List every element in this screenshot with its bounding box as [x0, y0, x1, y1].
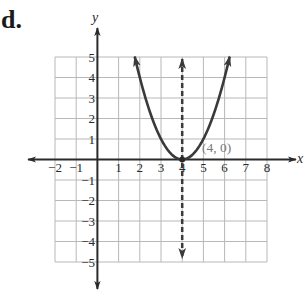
y-tick-label: 1 — [89, 132, 96, 147]
x-tick-label: 6 — [221, 160, 228, 175]
y-tick-label: 4 — [89, 70, 96, 85]
y-axis-label: y — [90, 10, 99, 25]
y-tick-label: 5 — [89, 50, 96, 65]
y-tick-label: −2 — [81, 193, 95, 208]
y-tick-label: 2 — [89, 111, 96, 126]
x-tick-label: −2 — [48, 160, 62, 175]
y-tick-label: −1 — [81, 173, 95, 188]
graph: x y −2−112345678 54321−1−2−3−4−5 (4, 0) — [0, 0, 308, 293]
vertex-label: (4, 0) — [202, 140, 231, 155]
x-tick-label: 8 — [264, 160, 271, 175]
y-tick-label: −4 — [81, 234, 95, 249]
y-tick-label: 3 — [89, 91, 96, 106]
x-tick-label: 5 — [200, 160, 207, 175]
y-tick-label: −5 — [81, 255, 95, 270]
x-tick-label: 7 — [243, 160, 250, 175]
x-tick-label: 2 — [137, 160, 144, 175]
x-axis-label: x — [296, 151, 304, 166]
y-tick-label: −3 — [81, 214, 95, 229]
vertex-point — [179, 157, 185, 163]
x-tick-label: 3 — [158, 160, 165, 175]
x-tick-label: 1 — [115, 160, 122, 175]
